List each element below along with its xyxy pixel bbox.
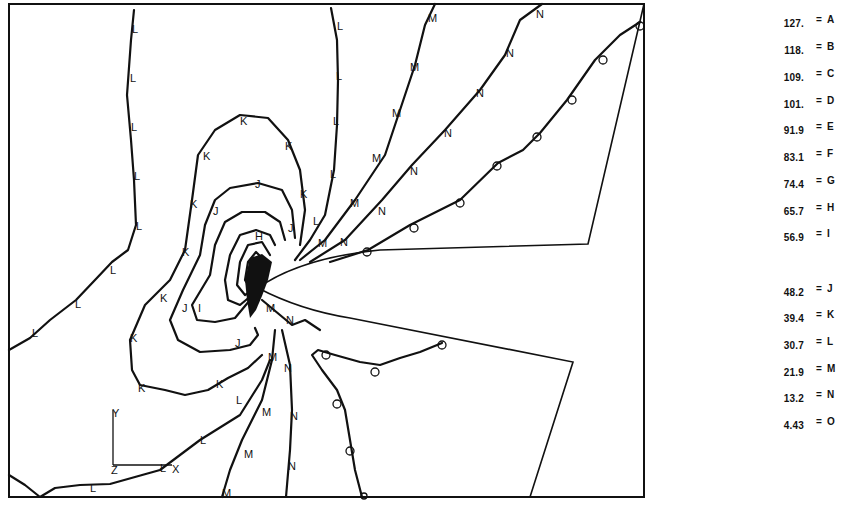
legend-value: 118. (770, 45, 804, 56)
svg-text:L: L (130, 72, 136, 84)
legend-equals: = (816, 148, 822, 159)
legend-value: 83.1 (770, 152, 804, 163)
legend-value: 4.43 (770, 420, 804, 431)
legend-value: 65.7 (770, 206, 804, 217)
svg-text:K: K (138, 382, 146, 394)
triad-y-label: Y (112, 407, 120, 419)
legend-row: 83.1=F (770, 148, 850, 166)
svg-text:M: M (428, 12, 437, 24)
svg-text:J: J (182, 302, 188, 314)
legend-letter: A (827, 14, 834, 25)
svg-text:H: H (255, 230, 263, 242)
legend-letter: M (827, 363, 835, 374)
legend-equals: = (816, 363, 822, 374)
legend-letter: B (827, 41, 834, 52)
svg-text:L: L (90, 482, 96, 494)
legend-letter: O (827, 416, 835, 427)
legend-row: 65.7=H (770, 202, 850, 220)
legend-row: 39.4=K (770, 309, 850, 327)
legend-row: 118.=B (770, 41, 850, 59)
legend-letter: D (827, 95, 834, 106)
svg-text:L: L (200, 434, 206, 446)
svg-text:J: J (213, 205, 219, 217)
legend-letter: N (827, 389, 834, 400)
legend-value: 109. (770, 72, 804, 83)
legend-value: 48.2 (770, 287, 804, 298)
svg-text:M: M (350, 197, 359, 209)
legend-equals: = (816, 68, 822, 79)
legend-value: 91.9 (770, 125, 804, 136)
svg-text:M: M (266, 302, 275, 314)
svg-text:K: K (216, 378, 224, 390)
contour-legend: 127.=A 118.=B 109.=C 101.=D 91.9=E 83.1=… (770, 0, 850, 516)
contour-line-O (330, 22, 640, 262)
legend-row: 91.9=E (770, 121, 850, 139)
svg-text:L: L (337, 20, 343, 32)
notch-boundary (258, 4, 644, 497)
legend-row: 30.7=L (770, 336, 850, 354)
svg-text:M: M (410, 61, 419, 73)
svg-text:L: L (132, 23, 138, 35)
legend-equals: = (816, 121, 822, 132)
contour-line-J (170, 183, 295, 352)
triad-x-label: X (172, 463, 180, 475)
legend-letter: G (827, 175, 835, 186)
svg-text:N: N (378, 205, 386, 217)
legend-equals: = (816, 228, 822, 239)
svg-text:N: N (340, 236, 348, 248)
legend-letter: C (827, 68, 834, 79)
legend-row: 13.2=N (770, 389, 850, 407)
legend-value: 39.4 (770, 313, 804, 324)
svg-text:M: M (268, 351, 277, 363)
svg-text:K: K (300, 188, 308, 200)
svg-text:L: L (110, 264, 116, 276)
legend-equals: = (816, 283, 822, 294)
legend-equals: = (816, 202, 822, 213)
legend-equals: = (816, 175, 822, 186)
svg-text:N: N (410, 165, 418, 177)
svg-text:L: L (313, 215, 319, 227)
legend-value: 30.7 (770, 340, 804, 351)
svg-text:M: M (318, 237, 327, 249)
legend-letter: L (827, 336, 833, 347)
svg-text:M: M (262, 406, 271, 418)
legend-row: 21.9=M (770, 363, 850, 381)
svg-text:I: I (198, 302, 201, 314)
contour-line-L (9, 10, 136, 350)
legend-value: 56.9 (770, 232, 804, 243)
legend-equals: = (816, 336, 822, 347)
contour-line-N (310, 4, 542, 262)
svg-text:L: L (333, 115, 339, 127)
contour-plot: Y X Z L L L L L L L L L L L L L L L L L … (0, 0, 660, 516)
legend-letter: J (827, 283, 833, 294)
legend-row: 74.4=G (770, 175, 850, 193)
legend-letter: E (827, 121, 834, 132)
svg-text:J: J (235, 337, 241, 349)
axes-triad: Y X Z (111, 407, 180, 476)
svg-text:M: M (244, 448, 253, 460)
contour-line-L (9, 360, 270, 497)
svg-text:M: M (392, 107, 401, 119)
svg-text:N: N (290, 410, 298, 422)
legend-equals: = (816, 389, 822, 400)
svg-text:N: N (444, 127, 452, 139)
svg-text:K: K (130, 332, 138, 344)
legend-row: 4.43=O (770, 416, 850, 434)
svg-text:L: L (32, 327, 38, 339)
svg-text:K: K (190, 198, 198, 210)
svg-text:L: L (131, 121, 137, 133)
svg-text:L: L (134, 170, 140, 182)
legend-equals: = (816, 41, 822, 52)
svg-text:J: J (255, 178, 261, 190)
svg-text:L: L (136, 220, 142, 232)
legend-letter: F (827, 148, 833, 159)
svg-text:N: N (536, 8, 544, 20)
svg-text:L: L (236, 394, 242, 406)
svg-text:K: K (285, 140, 293, 152)
triad-z-label: Z (111, 464, 118, 476)
legend-equals: = (816, 416, 822, 427)
legend-equals: = (816, 309, 822, 320)
svg-text:M: M (372, 152, 381, 164)
svg-text:L: L (330, 168, 336, 180)
contour-line-K (130, 115, 305, 395)
